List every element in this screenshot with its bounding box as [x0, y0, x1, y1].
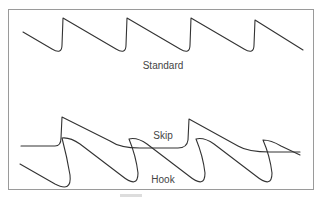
- standard-label: Standard: [143, 60, 184, 71]
- standard-waveform: [23, 18, 303, 51]
- hook-label: Hook: [151, 174, 174, 185]
- faint-mark: [120, 194, 142, 197]
- waveforms-svg: [0, 0, 325, 200]
- skip-label: Skip: [153, 130, 172, 141]
